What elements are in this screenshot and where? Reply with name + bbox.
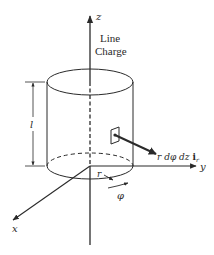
radius-label: r bbox=[97, 169, 102, 179]
phi-direction-arrow bbox=[108, 183, 128, 188]
y-axis-label: y bbox=[199, 161, 206, 172]
area-element-label: r dφ dz ir bbox=[157, 152, 200, 163]
line-charge-label-1: Line bbox=[100, 32, 120, 44]
normal-vector-arrow bbox=[115, 135, 156, 154]
length-label: l bbox=[30, 119, 33, 130]
x-axis-label: x bbox=[12, 223, 18, 234]
line-charge-label-2: Charge bbox=[95, 45, 127, 57]
z-axis-label: z bbox=[95, 11, 102, 22]
line-charge-cylinder-diagram: z Line Charge l y x r φ r dφ dz ir bbox=[0, 0, 214, 255]
x-axis bbox=[13, 166, 90, 220]
area-element-expression: r dφ dz bbox=[157, 152, 192, 162]
angle-label: φ bbox=[117, 190, 124, 201]
